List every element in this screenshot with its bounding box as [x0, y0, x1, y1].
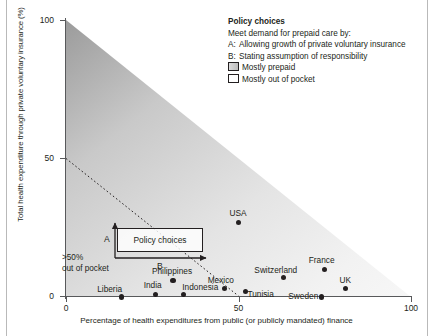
x-tick-label-50: 50 — [219, 303, 259, 313]
data-point — [181, 292, 186, 297]
data-point-label: Switzerland — [254, 265, 297, 275]
chart-figure: 0 50 100 0 50 100 Total health expenditu… — [0, 0, 433, 336]
x-axis-label: Percentage of health expenditures from p… — [0, 316, 433, 325]
data-point-label: Philippines — [152, 266, 192, 276]
legend-subtitle: Meet demand for prepaid care by: — [228, 28, 428, 39]
legend-swatch-prepaid: Mostly prepaid — [228, 62, 428, 73]
legend-swatch-prepaid-label: Mostly prepaid — [242, 62, 295, 73]
x-tick-50 — [239, 296, 240, 302]
x-tick-100 — [411, 296, 412, 302]
x-tick-label-0: 0 — [46, 303, 86, 313]
policy-choices-callout: Policy choices — [117, 228, 203, 252]
y-tick-100 — [60, 20, 66, 21]
data-point — [319, 294, 324, 299]
legend: Policy choices Meet demand for prepaid c… — [228, 16, 428, 85]
data-point-label: Liberia — [97, 284, 122, 294]
legend-item-b-key: B: — [228, 51, 239, 62]
data-point — [170, 278, 175, 283]
data-point-label: France — [309, 255, 335, 265]
mostly-out-of-pocket-swatch-icon — [228, 74, 239, 83]
y-axis-label: Total health expenditure through private… — [16, 0, 25, 250]
y-tick-label-0: 0 — [8, 291, 54, 301]
arrow-a-label: A — [104, 234, 110, 244]
y-tick-50 — [60, 158, 66, 159]
data-point-label: Tunisia — [247, 289, 273, 299]
legend-item-a-key: A: — [228, 39, 239, 50]
mostly-prepaid-swatch-icon — [228, 62, 239, 71]
out-of-pocket-line-2: out of pocket — [62, 263, 109, 274]
data-point — [236, 220, 241, 225]
policy-choices-callout-label: Policy choices — [133, 235, 186, 245]
data-point — [119, 294, 124, 299]
legend-item-a-text: Allowing growth of private voluntary ins… — [239, 39, 406, 50]
legend-swatch-out-of-pocket: Mostly out of pocket — [228, 74, 428, 85]
data-point-label: India — [144, 280, 162, 290]
x-tick-label-100: 100 — [391, 303, 431, 313]
legend-item-a: A: Allowing growth of private voluntary … — [228, 39, 428, 50]
legend-item-b-text: Stating assumption of responsibility — [239, 51, 367, 62]
data-point-label: Sweden — [288, 291, 318, 301]
data-point-label: USA — [230, 208, 247, 218]
page-rule-left — [6, 0, 7, 336]
legend-item-b: B: Stating assumption of responsibility — [228, 51, 428, 62]
legend-swatch-out-of-pocket-label: Mostly out of pocket — [242, 74, 315, 85]
data-point-label: UK — [339, 275, 351, 285]
out-of-pocket-note: >50% out of pocket — [62, 252, 109, 274]
legend-title: Policy choices — [228, 16, 428, 27]
data-point-label: Mexico — [208, 275, 234, 285]
out-of-pocket-line-1: >50% — [62, 252, 109, 263]
x-tick-0 — [66, 296, 67, 302]
